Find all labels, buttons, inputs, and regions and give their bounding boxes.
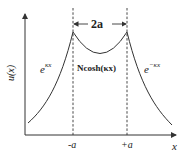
x-axis-label: x — [172, 141, 177, 152]
width-annotation: 2a — [91, 18, 103, 30]
curve-left-exponential — [28, 32, 73, 123]
width-annotation-text: 2a — [91, 17, 103, 31]
center-region-label: Ncosh(κx) — [77, 64, 116, 73]
left-label-exponent: κx — [45, 61, 51, 69]
left-region-label: eκx — [40, 62, 51, 75]
right-label-exponent: −κx — [149, 61, 160, 69]
curve-center-cosh — [73, 32, 127, 54]
tick-label-right: +a — [121, 140, 133, 150]
curve-right-exponential — [127, 32, 172, 125]
y-axis-label: u(x) — [6, 65, 16, 81]
tick-label-left: -a — [68, 140, 76, 150]
right-region-label: e−κx — [144, 62, 160, 75]
